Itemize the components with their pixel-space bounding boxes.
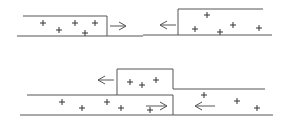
arrow-right-icon [146, 102, 167, 110]
plus-charge-icon [234, 98, 240, 104]
panel-bottom [20, 69, 273, 115]
plus-charge-icon [59, 99, 65, 105]
arrow-left-icon [195, 102, 215, 110]
plus-charge-icon [127, 79, 133, 85]
plus-charge-icon [82, 30, 88, 36]
arrow-left-icon [160, 21, 176, 29]
panel-top-right [143, 9, 272, 35]
plus-charge-icon [40, 20, 46, 26]
plus-charge-icon [192, 26, 198, 32]
panel-top-left [17, 16, 143, 36]
plus-charge-icon [118, 105, 124, 111]
arrow-left-icon [98, 76, 114, 84]
plus-charge-icon [139, 82, 145, 88]
arrow-right-icon [110, 22, 126, 30]
plus-charge-icon [230, 22, 236, 28]
plus-charge-icon [256, 25, 262, 31]
plus-charge-icon [201, 92, 207, 98]
plus-charge-icon [204, 12, 210, 18]
plus-charge-icon [254, 105, 260, 111]
plus-charge-icon [79, 105, 85, 111]
plus-charge-icon [217, 29, 223, 35]
plus-charge-icon [104, 99, 110, 105]
plus-charge-icon [92, 20, 98, 26]
plus-charge-icon [153, 77, 159, 83]
plus-charge-icon [147, 107, 153, 113]
plus-charge-icon [72, 20, 78, 26]
charge-diagram [0, 0, 286, 120]
plus-charge-icon [56, 27, 62, 33]
